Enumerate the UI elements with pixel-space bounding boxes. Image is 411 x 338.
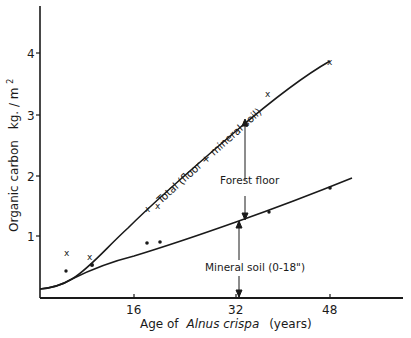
x-tick-label-48: 48 — [322, 303, 337, 317]
y-tick-label-4: 4 — [27, 47, 35, 61]
x-marker: x — [87, 252, 93, 262]
y-tick-label-1: 1 — [27, 230, 35, 244]
dot-marker — [328, 186, 332, 190]
y-tick-label-2: 2 — [27, 170, 35, 184]
x-axis-label-species: Alnus crispa — [185, 317, 259, 331]
x-axis-label-unit: (years) — [269, 317, 311, 331]
mineral-soil-curve — [40, 178, 352, 289]
dot-marker — [90, 263, 94, 267]
x-tick-label-32: 32 — [228, 303, 243, 317]
x-marker: x — [327, 57, 333, 67]
x-axis-label: Age of Alnus crispa (years) — [140, 317, 312, 331]
y-axis-label-main: Organic carbon — [7, 140, 21, 232]
y-axis-label-unit-sup: 2 — [6, 79, 15, 84]
dot-marker — [267, 210, 270, 213]
forest-floor-arrows — [242, 119, 248, 220]
x-marker: x — [265, 89, 271, 99]
chart: 4 3 2 1 16 32 48 Age of Alnus crispa (ye… — [0, 0, 411, 338]
mineral-data-markers — [64, 186, 332, 272]
x-marker: x — [155, 201, 161, 211]
y-tick-label-3: 3 — [27, 109, 35, 123]
dot-marker — [158, 240, 162, 244]
y-axis-label-unit: kg. / m — [7, 87, 21, 129]
y-axis-label: Organic carbon kg. / m 2 — [6, 79, 21, 232]
dot-marker — [64, 269, 67, 272]
dot-marker — [145, 241, 149, 245]
x-marker: x — [145, 204, 151, 214]
x-axis-label-prefix: Age of — [140, 317, 179, 331]
forest-floor-label: Forest floor — [220, 174, 280, 186]
x-marker: x — [64, 248, 70, 258]
mineral-soil-arrows — [236, 221, 242, 297]
total-curve-label: Total (floor + mineral soil) — [154, 105, 264, 206]
x-tick-label-16: 16 — [126, 303, 141, 317]
mineral-soil-label: Mineral soil (0-18") — [205, 261, 305, 273]
